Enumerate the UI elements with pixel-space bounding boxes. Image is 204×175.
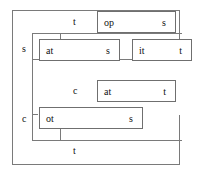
box-at-t[interactable]: at t (97, 80, 176, 102)
box-at-s-right-text: s (106, 45, 110, 56)
box-at-s[interactable]: at s (39, 39, 120, 61)
box-op-s-right-text: s (162, 17, 166, 28)
bracket-label-t-bottom: t (73, 146, 76, 156)
outer-label-s: s (22, 44, 26, 54)
box-ot-s[interactable]: ot s (39, 107, 143, 129)
bracket-label-t-top: t (73, 17, 76, 27)
box-ot-s-right-text: s (129, 113, 133, 124)
box-op-s[interactable]: op s (97, 11, 176, 33)
diagram-canvas: s c t c t op s at s it t at t ot s (0, 0, 204, 175)
box-at-t-left-text: at (104, 86, 111, 97)
box-op-s-left-text: op (104, 17, 114, 28)
bracket-label-c-mid: c (73, 86, 77, 96)
box-it-t-left-text: it (139, 45, 145, 56)
box-it-t[interactable]: it t (132, 39, 192, 61)
box-at-s-left-text: at (46, 45, 53, 56)
outer-label-c: c (22, 114, 26, 124)
box-it-t-right-text: t (179, 45, 182, 56)
box-at-t-right-text: t (163, 86, 166, 97)
box-ot-s-left-text: ot (46, 113, 54, 124)
